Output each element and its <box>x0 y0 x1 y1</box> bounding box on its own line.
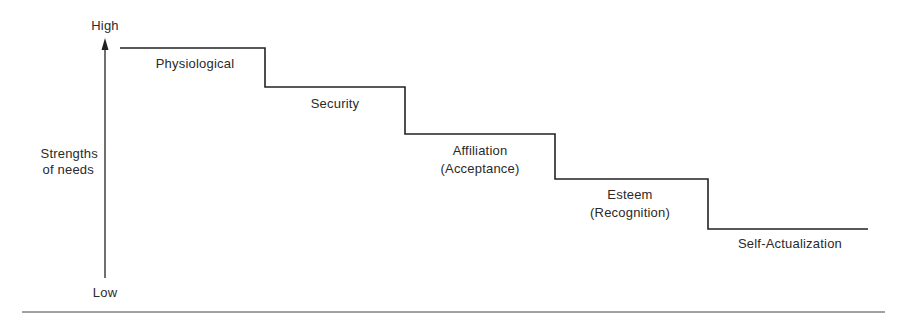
axis-high-label: High <box>90 18 120 34</box>
axis-title-line2: of needs <box>20 162 94 178</box>
step-label-affiliation: Affiliation <box>425 143 535 159</box>
step-label-esteem-sub: (Recognition) <box>575 205 685 221</box>
step-label-physiological: Physiological <box>140 56 250 72</box>
axis-title-line1: Strengths <box>20 146 98 162</box>
step-label-self-actualization: Self-Actualization <box>715 236 865 252</box>
arrow-up-icon <box>102 38 109 50</box>
step-label-esteem: Esteem <box>575 187 685 203</box>
axis-low-label: Low <box>88 285 122 301</box>
step-label-security: Security <box>290 96 380 112</box>
step-label-affiliation-sub: (Acceptance) <box>425 161 535 177</box>
needs-step-line <box>120 48 868 229</box>
